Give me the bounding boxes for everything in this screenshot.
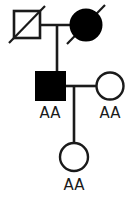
- genotype-label-II-1: AA: [40, 104, 62, 122]
- genotype-label-III-1: AA: [64, 176, 86, 194]
- individual-II-2-female-symbol[interactable]: [97, 73, 124, 100]
- pedigree-diagram-canvas: AA AA AA: [0, 0, 136, 200]
- individual-II-1-male-symbol[interactable]: [36, 72, 65, 100]
- individual-I-2-female-symbol[interactable]: [71, 10, 102, 41]
- individual-III-1-female-symbol[interactable]: [60, 143, 88, 171]
- genotype-label-II-2: AA: [100, 104, 122, 122]
- pedigree-chart: AA AA AA: [0, 0, 136, 200]
